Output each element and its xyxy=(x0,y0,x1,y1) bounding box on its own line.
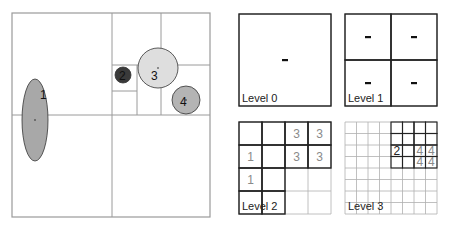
grid-cell xyxy=(391,122,403,134)
grid-cell xyxy=(262,145,285,168)
cell-value: 4 xyxy=(416,155,423,169)
empty-marker-icon xyxy=(411,36,417,38)
level-label: Level 1 xyxy=(348,92,383,104)
empty-marker-icon xyxy=(365,82,371,84)
grid-cell xyxy=(403,145,415,157)
cell-value: 3 xyxy=(316,150,323,164)
cell-value: 3 xyxy=(293,127,300,141)
level-label: Level 3 xyxy=(348,200,383,212)
cell-value: 3 xyxy=(316,127,323,141)
grid-cell xyxy=(414,122,426,134)
grid-cell xyxy=(262,122,285,145)
grid-cell xyxy=(403,134,415,146)
level-grids: Level 0Level 1331331Level 224444Level 3 xyxy=(239,14,437,214)
cell-value: 1 xyxy=(247,150,254,164)
spatial-object-2: 2 xyxy=(115,67,131,83)
object-label: 1 xyxy=(40,88,47,102)
cell-value: 2 xyxy=(393,144,400,158)
grid-cell xyxy=(239,122,262,145)
empty-marker-icon xyxy=(365,36,371,38)
spatial-quadtree-view: 1234 xyxy=(12,13,210,217)
diagram-canvas: 1234 Level 0Level 1331331Level 224444Lev… xyxy=(0,0,451,231)
empty-marker-icon xyxy=(411,82,417,84)
grid-cell xyxy=(262,168,285,191)
grid-cell xyxy=(403,157,415,169)
level-grid-3: 24444Level 3 xyxy=(345,122,437,214)
grid-cell xyxy=(426,122,438,134)
spatial-object-4: 4 xyxy=(172,86,200,114)
object-label: 3 xyxy=(151,69,158,83)
empty-marker-icon xyxy=(282,59,288,61)
level-grid-2: 331331Level 2 xyxy=(239,122,331,214)
level-grid-0: Level 0 xyxy=(239,14,331,106)
center-dot xyxy=(34,119,36,121)
cell-value: 3 xyxy=(293,150,300,164)
object-label: 2 xyxy=(119,69,126,83)
cell-value: 4 xyxy=(428,155,435,169)
grid-cell xyxy=(403,122,415,134)
spatial-object-3: 3 xyxy=(138,48,178,88)
object-label: 4 xyxy=(180,95,187,109)
cell-value: 1 xyxy=(247,173,254,187)
spatial-object-1: 1 xyxy=(22,79,48,161)
level-label: Level 0 xyxy=(242,92,277,104)
level-grid-1: Level 1 xyxy=(345,14,437,106)
grid-cell xyxy=(391,157,403,169)
level-label: Level 2 xyxy=(242,200,277,212)
